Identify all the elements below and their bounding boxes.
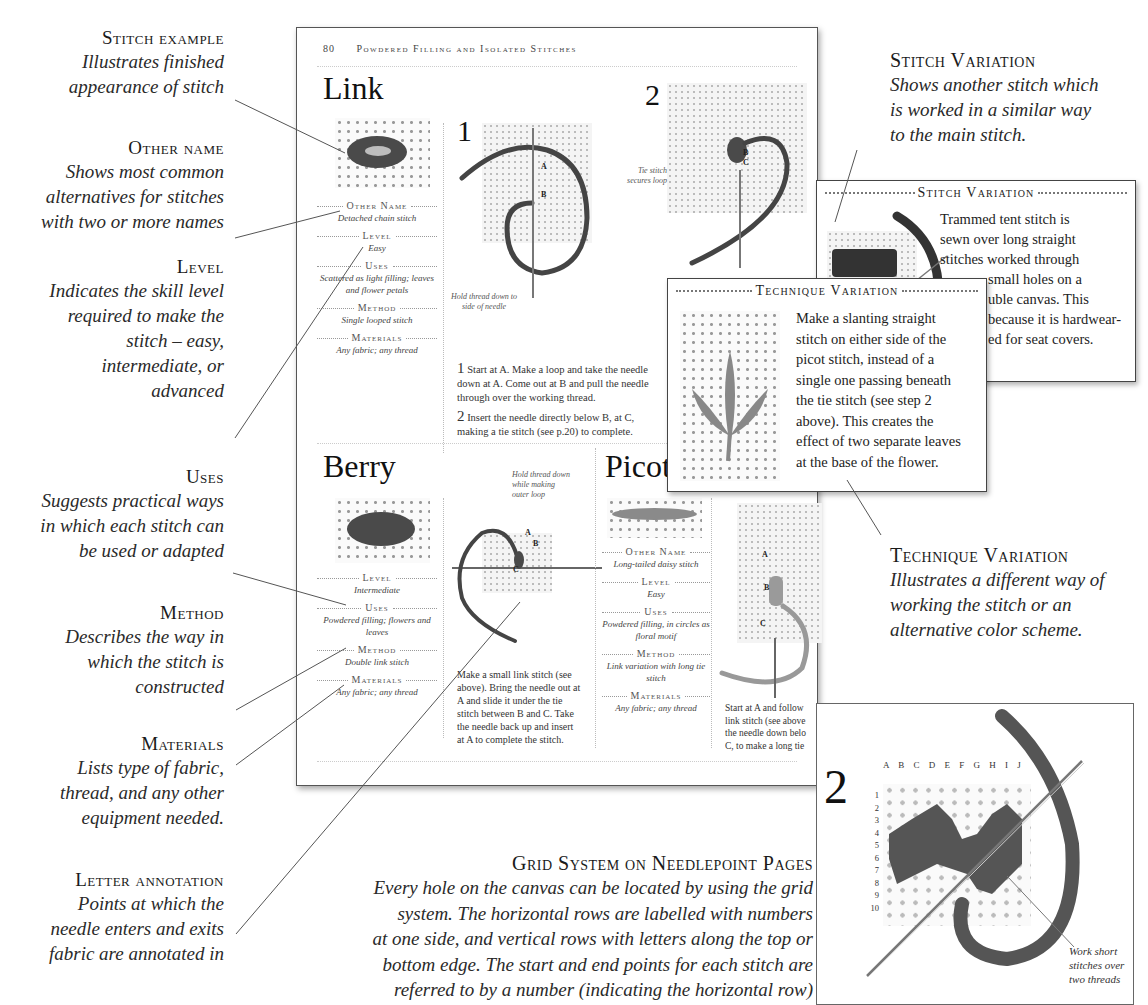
step-number: 2 [645,78,660,112]
info-label: Materials [317,674,437,686]
callout-tie-stitch: Tie stitch secures loop [617,166,667,186]
annotation-heading: Materials [60,733,224,755]
caption-line: Every hole on the canvas can be located … [296,875,813,901]
column-rule [443,498,444,738]
info-value: Double link stitch [317,656,437,668]
letter-b: B [541,190,546,199]
annotation-desc-line: Lists type of fabric, [60,755,224,780]
info-label: Materials [317,332,437,344]
annotation-desc-line: required to make the [49,303,224,328]
callout-hold-outer-loop: Hold thread down while making outer loop [512,470,572,500]
box-body-line: sewn over long straight [940,229,1130,249]
annotation-technique-variation: Technique Variation Illustrates a differ… [890,543,1105,642]
box-title: Stitch Variation [817,185,1135,201]
info-label: Other Name [317,200,437,212]
letter-b: B [743,148,748,157]
annotation-desc-line: Shows another stitch which [890,72,1098,97]
link-instructions: 1 Start at A. Make a loop and take the n… [457,361,657,439]
caption-line: system. The horizontal rows are labelled… [296,901,813,927]
annotation-heading: Uses [40,466,224,488]
section-title-berry: Berry [323,448,396,485]
box-body-line: stitch on either side of the [796,329,986,350]
annotation-desc-line: in which each stitch can [40,513,224,538]
annotation-method: Method Describes the way in which the st… [65,602,224,699]
info-value: Powdered filling; flowers and leaves [317,614,437,638]
berry-illustration [447,518,602,648]
letter-a: A [762,550,768,559]
annotation-heading: Letter annotation [49,869,224,891]
info-label: Other Name [602,546,710,558]
info-value: Any fabric; any thread [317,686,437,698]
annotation-desc-line: equipment needed. [60,805,224,830]
berry-info-panel: Level Intermediate Uses Powdered filling… [317,566,437,698]
annotation-desc-line: needle enters and exits [49,916,224,941]
info-label: Method [317,644,437,656]
stitch-example-image [335,118,430,188]
info-value: Detached chain stitch [317,212,437,224]
annotation-other-name: Other name Shows most common alternative… [41,137,224,234]
callout-work-short-stitches: Work short stitches over two threads [1069,944,1124,986]
annotation-materials: Materials Lists type of fabric, thread, … [60,733,224,830]
instr-num: 2 [457,408,465,424]
instr-text: Insert the needle directly below B, at C… [457,412,634,437]
running-head: 80 Powdered Filling and Isolated Stitche… [323,43,577,54]
annotation-stitch-example: Stitch example Illustrates finished appe… [69,27,224,99]
technique-variation-image [680,311,780,481]
stitch-example-image [607,498,702,538]
box-body-line: stitches worked through [940,249,1130,269]
info-label: Level [317,230,437,242]
caption-line: bottom edge. The start and end points fo… [296,952,813,978]
annotation-desc-line: appearance of stitch [69,74,224,99]
annotation-uses: Uses Suggests practical ways in which ea… [40,466,224,563]
stitch-center [365,146,391,156]
annotation-heading: Method [65,602,224,624]
info-label: Uses [317,260,437,272]
annotation-desc-line: working the stitch or an [890,592,1105,617]
annotation-desc-line: is worked in a similar way [890,97,1098,122]
box-title: Technique Variation [668,283,986,299]
annotation-desc-line: thread, and any other [60,780,224,805]
info-value: Link variation with long tie stitch [602,660,710,684]
letter-c: C [760,619,766,628]
annotation-desc-line: be used or adapted [40,538,224,563]
link-info-panel: Other Name Detached chain stitch Level E… [317,194,437,356]
box-body-line: above). This creates the [796,411,986,432]
step2-illustration [667,118,817,268]
letter-c: C [743,158,749,167]
callout-line: Work short [1069,944,1124,958]
annotation-heading: Other name [41,137,224,159]
info-value: Single looped stitch [317,314,437,326]
annotation-desc-line: Describes the way in [65,624,224,649]
annotation-desc-line: Indicates the skill level [49,278,224,303]
info-label: Method [602,648,710,660]
yarn-stitch [612,508,697,520]
callout-line: stitches over [1069,958,1124,972]
annotation-desc-line: intermediate, or [49,353,224,378]
column-rule [595,448,596,748]
box-body-line: the tie stitch (see step 2 [796,390,986,411]
annotation-desc-line: Illustrates finished [69,49,224,74]
section-title-picot: Picot [605,448,671,485]
instr-num: 1 [457,360,465,376]
box-body-line: at the base of the flower. [796,452,986,473]
info-label: Level [602,576,710,588]
column-rule [711,498,712,748]
annotation-desc-line: stitch – easy, [49,328,224,353]
page-number: 80 [323,43,335,54]
annotation-desc-line: Suggests practical ways [40,488,224,513]
annotation-desc-line: Points at which the [49,891,224,916]
annotation-desc-line: advanced [49,378,224,403]
info-value: Easy [602,588,710,600]
instr-text: Start at A. Make a loop and take the nee… [457,364,649,403]
box-body-line: effect of two separate leaves [796,431,986,452]
grid-system-caption: Grid System on Needlepoint Pages Every h… [296,851,813,1003]
annotation-heading: Technique Variation [890,543,1105,567]
info-value: Intermediate [317,584,437,596]
annotation-desc-line: fabric are annotated in [49,941,224,966]
info-value: Any fabric; any thread [602,702,710,714]
info-label: Level [317,572,437,584]
column-rule [443,123,444,453]
info-label: Uses [602,606,710,618]
annotation-heading: Stitch example [69,27,224,49]
letter-a: A [525,528,531,537]
